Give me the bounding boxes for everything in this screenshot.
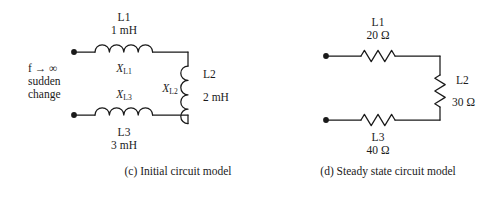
- panel-c-l3-reactance-subscript: L3: [123, 93, 132, 102]
- panel-c-l1-reactance-subscript: L1: [123, 67, 132, 76]
- panel-c-caption: (c) Initial circuit model: [125, 165, 232, 178]
- panel-c-l3-value: 3 mH: [111, 139, 137, 152]
- panel-c-l2-reactance-label: XL2: [162, 82, 178, 96]
- panel-d-l2-value: 30 Ω: [452, 96, 475, 109]
- panel-d-l3-name: L3: [367, 131, 390, 144]
- panel-d-l3-value: 40 Ω: [367, 144, 390, 157]
- panel-d-resistor-l2-symbol: [435, 75, 445, 107]
- panel-c-l3-reactance-symbol: X: [116, 88, 123, 100]
- panel-c-l2-reactance-subscript: L2: [169, 87, 178, 96]
- panel-c-l3-reactance-label: XL3: [116, 88, 132, 102]
- panel-c-l1-name: L1: [111, 11, 137, 24]
- panel-d-l2-name: L2: [456, 74, 469, 87]
- panel-c-l2-reactance-symbol: X: [162, 82, 169, 94]
- panel-c-l2-name: L2: [203, 68, 216, 81]
- panel-c-condition-frequency: f → ∞: [28, 62, 61, 75]
- panel-d-caption: (d) Steady state circuit model: [320, 165, 455, 178]
- panel-d-resistor-l1-symbol: [361, 50, 395, 61]
- panel-d-l1-name: L1: [367, 16, 390, 29]
- panel-c-l1-reactance-symbol: X: [116, 62, 123, 74]
- panel-c-condition-block: f → ∞ sudden change: [28, 62, 61, 101]
- panel-c-condition-line3: change: [28, 88, 61, 101]
- panel-c-l2-value: 2 mH: [203, 91, 229, 104]
- panel-d-l3-label: L3 40 Ω: [367, 131, 390, 157]
- panel-d-resistor-l3-symbol: [361, 114, 395, 125]
- panel-c-condition-line2: sudden: [28, 75, 61, 88]
- panel-c-l1-value: 1 mH: [111, 24, 137, 37]
- panel-c-inductor-l1-symbol: [95, 45, 153, 52]
- panel-c-l1-reactance-label: XL1: [116, 62, 132, 76]
- panel-d-l1-value: 20 Ω: [367, 29, 390, 42]
- circuit-figure-pair: L1 1 mH XL1 XL3 XL2 L2 2 mH L3 3 mH f → …: [0, 0, 487, 202]
- panel-c-inductor-l3-symbol: [95, 108, 153, 115]
- panel-c-l1-label: L1 1 mH: [111, 11, 137, 37]
- panel-d-l1-label: L1 20 Ω: [367, 16, 390, 42]
- panel-c-l3-name: L3: [111, 126, 137, 139]
- panel-c-l3-label: L3 3 mH: [111, 126, 137, 152]
